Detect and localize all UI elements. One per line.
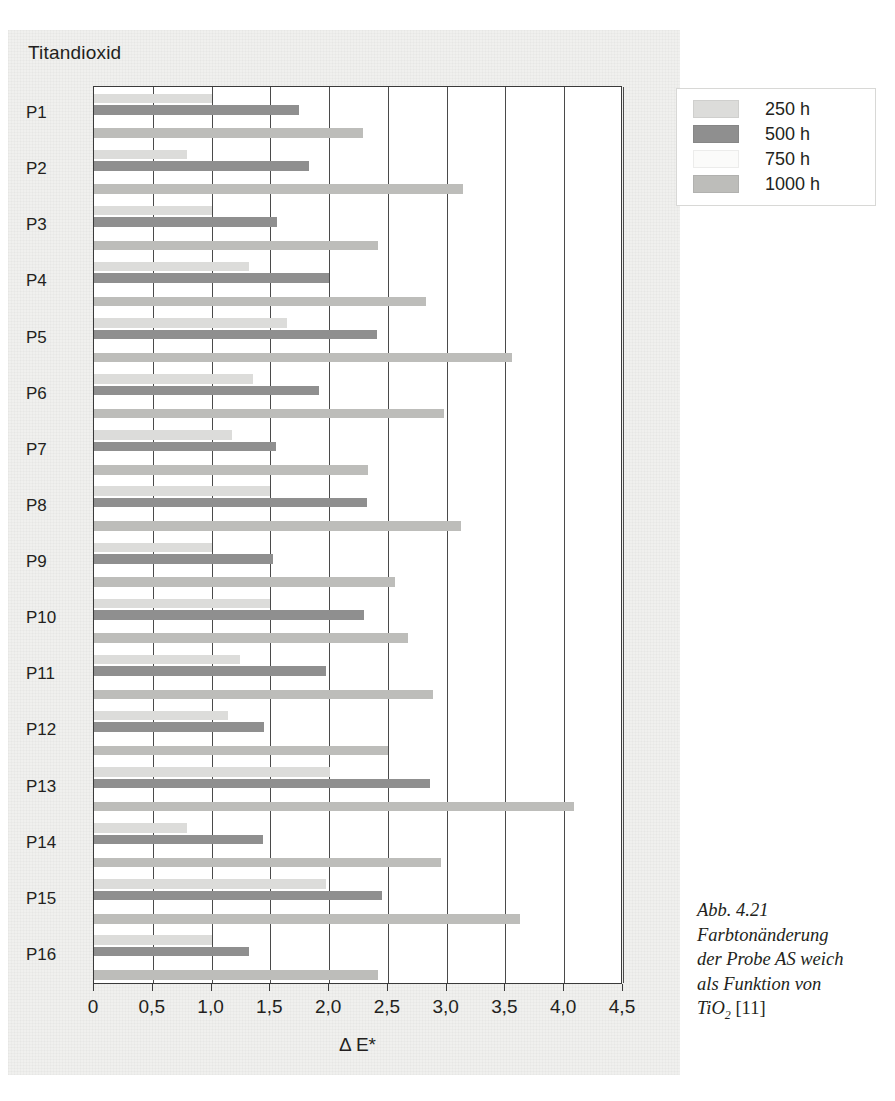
bar: [94, 374, 253, 384]
x-tick-label: 0,5: [139, 996, 165, 1018]
bar: [94, 353, 512, 363]
category-label: P5: [0, 328, 82, 348]
x-tick: [446, 984, 447, 991]
bar: [94, 802, 574, 812]
x-tick: [563, 984, 564, 991]
bar-group: [94, 424, 621, 480]
bar: [94, 858, 441, 868]
x-axis-title: Δ E*: [93, 1034, 622, 1056]
bar-group: [94, 368, 621, 424]
bar: [94, 486, 270, 496]
bar: [94, 779, 430, 789]
bar: [94, 823, 187, 833]
bar: [94, 914, 520, 924]
bar-group: [94, 592, 621, 648]
bar: [94, 879, 326, 889]
category-label: P3: [0, 215, 82, 235]
bar-group: [94, 761, 621, 817]
x-tick-label: 4,0: [550, 996, 576, 1018]
x-tick-label: 1,5: [256, 996, 282, 1018]
caption-line-4: als Funktion von: [697, 972, 887, 997]
figure-caption: Abb. 4.21 Farbtonänderung der Probe AS w…: [697, 898, 887, 1024]
bar-group: [94, 199, 621, 255]
bar: [94, 543, 212, 553]
bar: [94, 206, 212, 216]
bar: [94, 633, 408, 643]
bar: [94, 746, 388, 756]
bar: [94, 722, 264, 732]
bar: [94, 767, 330, 777]
bar: [94, 554, 273, 564]
bar: [94, 94, 212, 104]
bar-group: [94, 143, 621, 199]
legend-swatch: [693, 100, 739, 118]
x-tick: [504, 984, 505, 991]
figure-page: Titandioxid P1P2P3P4P5P6P7P8P9P10P11P12P…: [0, 0, 895, 1101]
x-tick: [93, 984, 94, 991]
category-label: P16: [0, 945, 82, 965]
legend-label: 1000 h: [765, 174, 820, 195]
chart-title: Titandioxid: [28, 42, 121, 64]
legend-item: 750 h: [693, 148, 810, 170]
caption-line-3: der Probe AS weich: [697, 947, 887, 972]
bar: [94, 184, 463, 194]
category-label: P10: [0, 608, 82, 628]
bar: [94, 105, 299, 115]
bar: [94, 690, 433, 700]
bar: [94, 577, 395, 587]
category-label: P13: [0, 777, 82, 797]
x-tick-label: 0: [88, 996, 99, 1018]
bar: [94, 409, 444, 419]
bar: [94, 935, 212, 945]
bar: [94, 947, 249, 957]
legend-item: 500 h: [693, 123, 810, 145]
bar: [94, 655, 240, 665]
bar: [94, 465, 368, 475]
bar: [94, 430, 232, 440]
x-tick: [387, 984, 388, 991]
bar: [94, 273, 329, 283]
caption-line-2: Farbtonänderung: [697, 923, 887, 948]
x-tick-label: 1,0: [197, 996, 223, 1018]
x-tick: [211, 984, 212, 991]
x-tick: [152, 984, 153, 991]
plot-area: [93, 86, 622, 984]
x-tick-label: 3,0: [432, 996, 458, 1018]
legend-swatch: [693, 125, 739, 143]
gridline: [623, 87, 624, 983]
legend-label: 750 h: [765, 149, 810, 170]
category-label: P4: [0, 271, 82, 291]
bar: [94, 521, 461, 531]
legend-item: 250 h: [693, 98, 810, 120]
bar: [94, 217, 277, 227]
x-tick-label: 2,0: [315, 996, 341, 1018]
bar-group: [94, 536, 621, 592]
legend-label: 250 h: [765, 99, 810, 120]
category-label: P6: [0, 384, 82, 404]
bar: [94, 150, 187, 160]
bar: [94, 241, 378, 251]
category-label: P12: [0, 720, 82, 740]
bar: [94, 262, 249, 272]
caption-reference: [11]: [731, 998, 766, 1018]
x-tick: [622, 984, 623, 991]
bar-group: [94, 480, 621, 536]
bars-layer: [94, 87, 621, 983]
bar: [94, 161, 309, 171]
bar: [94, 318, 287, 328]
bar: [94, 891, 382, 901]
bar-group: [94, 312, 621, 368]
x-tick-label: 4,5: [609, 996, 635, 1018]
legend-swatch: [693, 150, 739, 168]
category-label: P8: [0, 496, 82, 516]
bar: [94, 835, 263, 845]
category-label: P1: [0, 103, 82, 123]
bar-group: [94, 648, 621, 704]
category-label: P2: [0, 159, 82, 179]
bar-group: [94, 255, 621, 311]
category-label: P11: [0, 664, 82, 684]
bar-group: [94, 873, 621, 929]
category-label: P7: [0, 440, 82, 460]
bar: [94, 711, 228, 721]
bar: [94, 610, 364, 620]
